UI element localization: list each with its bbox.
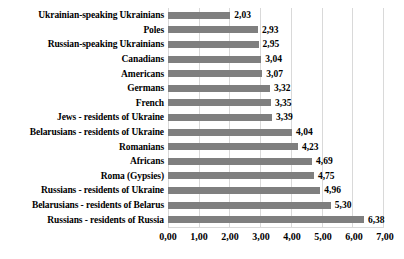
bar — [168, 187, 320, 194]
category-label-text: Russians - residents of Russia — [47, 215, 164, 225]
value-label: 4,04 — [296, 127, 313, 137]
value-label: 3,07 — [266, 69, 283, 79]
value-label: 3,04 — [265, 54, 282, 64]
category-label-text: Ukrainian-speaking Ukrainians — [38, 10, 164, 20]
bar — [168, 56, 261, 63]
category-label: Poles — [0, 23, 168, 38]
category-label: Russians - residents of Ukraine — [0, 183, 168, 198]
x-axis: 0,001,002,003,004,005,006,007,00 — [168, 229, 385, 247]
value-label: 4,96 — [324, 185, 341, 195]
value-label: 5,30 — [335, 200, 352, 210]
category-label: Canadians — [0, 52, 168, 67]
value-label: 3,39 — [276, 112, 293, 122]
bar — [168, 202, 331, 209]
bar-row: 4,75 — [168, 169, 383, 184]
bar-row: 3,39 — [168, 110, 383, 125]
bar-row: 4,69 — [168, 154, 383, 169]
value-label: 3,32 — [274, 83, 291, 93]
value-label: 2,93 — [262, 25, 279, 35]
category-label-text: Americans — [121, 69, 164, 79]
bar — [168, 114, 272, 121]
plot-wrapper: Ukrainian-speaking UkrainiansPolesRussia… — [0, 8, 384, 228]
bar-row: 2,95 — [168, 37, 383, 52]
category-label: Ukrainian-speaking Ukrainians — [0, 8, 168, 23]
value-label: 4,23 — [302, 142, 319, 152]
category-label: Belarusians - residents of Ukraine — [0, 125, 168, 140]
category-label-text: Roma (Gypsies) — [101, 171, 164, 181]
bar-row: 2,93 — [168, 23, 383, 38]
bar — [168, 70, 262, 77]
bar — [168, 41, 259, 48]
value-label: 4,75 — [318, 171, 335, 181]
category-label-text: Jews - residents of Ukraine — [57, 112, 164, 122]
category-label: French — [0, 96, 168, 111]
category-label-text: Belarusians - residents of Ukraine — [30, 127, 164, 137]
x-tick-label: 1,00 — [190, 231, 208, 242]
x-tick-label: 0,00 — [159, 231, 177, 242]
bar — [168, 85, 270, 92]
x-tick-label: 5,00 — [314, 231, 332, 242]
category-label-text: Belarusians - residents of Belarus — [32, 200, 164, 210]
bar-row: 4,96 — [168, 183, 383, 198]
bar-row: 4,23 — [168, 139, 383, 154]
bar — [168, 216, 364, 223]
category-label-text: French — [136, 98, 164, 108]
category-label: Roma (Gypsies) — [0, 169, 168, 184]
category-labels: Ukrainian-speaking UkrainiansPolesRussia… — [0, 8, 168, 228]
category-label: Romanians — [0, 139, 168, 154]
category-label-text: Romanians — [119, 142, 164, 152]
category-label: Americans — [0, 66, 168, 81]
category-label-text: Germans — [127, 83, 164, 93]
bar — [168, 12, 230, 19]
category-label: Belarusians - residents of Belarus — [0, 198, 168, 213]
bar-row: 6,38 — [168, 212, 383, 227]
x-tick-label: 6,00 — [345, 231, 363, 242]
bar — [168, 143, 298, 150]
bar-row: 3,32 — [168, 81, 383, 96]
bar-row: 5,30 — [168, 198, 383, 213]
category-label: Africans — [0, 154, 168, 169]
x-tick-label: 3,00 — [252, 231, 270, 242]
category-label: Russians - residents of Russia — [0, 212, 168, 227]
bar — [168, 158, 312, 165]
bar — [168, 172, 314, 179]
category-label-text: Canadians — [122, 54, 164, 64]
bar-row: 2,03 — [168, 8, 383, 23]
x-tick-label: 4,00 — [283, 231, 301, 242]
bar — [168, 129, 292, 136]
bar-chart: Ukrainian-speaking UkrainiansPolesRussia… — [0, 0, 404, 259]
category-label-text: Africans — [130, 156, 164, 166]
category-label-text: Poles — [143, 25, 164, 35]
category-label-text: Russians - residents of Ukraine — [41, 185, 164, 195]
value-label: 2,03 — [234, 10, 251, 20]
value-label: 3,35 — [275, 98, 292, 108]
category-label: Germans — [0, 81, 168, 96]
value-label: 2,95 — [263, 39, 280, 49]
value-label: 6,38 — [368, 215, 385, 225]
category-label: Jews - residents of Ukraine — [0, 110, 168, 125]
x-tick-label: 2,00 — [221, 231, 239, 242]
value-label: 4,69 — [316, 156, 333, 166]
bar — [168, 99, 271, 106]
category-label: Russian-speaking Ukrainians — [0, 37, 168, 52]
bar-row: 3,04 — [168, 52, 383, 67]
bar — [168, 26, 258, 33]
category-label-text: Russian-speaking Ukrainians — [48, 39, 164, 49]
bar-row: 3,07 — [168, 66, 383, 81]
bar-row: 4,04 — [168, 125, 383, 140]
x-tick-label: 7,00 — [376, 231, 394, 242]
bar-row: 3,35 — [168, 96, 383, 111]
plot-area: 2,032,932,953,043,073,323,353,394,044,23… — [168, 8, 384, 228]
